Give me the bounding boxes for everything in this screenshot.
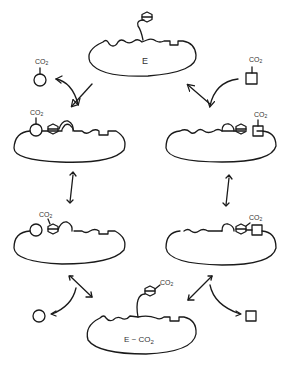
reversible-arrow-top-left bbox=[56, 76, 92, 106]
svg-text:CO2: CO2 bbox=[160, 279, 174, 287]
svg-text:CO2: CO2 bbox=[254, 111, 268, 119]
reversible-arrow-top-right bbox=[188, 79, 238, 106]
enzyme-square-transfer-complex: CO2 bbox=[166, 214, 276, 265]
svg-text:CO2: CO2 bbox=[249, 214, 263, 222]
enzyme-carboxylated: CO2 E ~ CO2 bbox=[87, 279, 196, 354]
reversible-arrow-left-vertical bbox=[67, 172, 76, 203]
circle-product bbox=[33, 310, 45, 322]
svg-text:CO2: CO2 bbox=[249, 56, 263, 64]
biotin-ring-icon bbox=[236, 124, 246, 134]
biotin-ring-icon bbox=[145, 286, 155, 296]
svg-text:CO2: CO2 bbox=[30, 109, 44, 117]
enzyme-free: E bbox=[89, 12, 196, 76]
enzyme-bottom-label: E ~ CO2 bbox=[124, 335, 154, 345]
carboxyltransferase-cycle-diagram: E CO2 CO2 CO2 bbox=[0, 0, 292, 368]
enzyme-top-label: E bbox=[142, 56, 148, 66]
enzyme-circle-substrate-complex: CO2 bbox=[14, 109, 125, 162]
biotin-ring-icon bbox=[48, 224, 58, 234]
biotin-ring-icon bbox=[142, 12, 152, 22]
enzyme-square-substrate-complex: CO2 bbox=[166, 111, 276, 162]
enzyme-circle-transfer-complex: CO2 bbox=[14, 211, 125, 264]
biotin-ring-icon bbox=[236, 224, 246, 234]
svg-text:CO2: CO2 bbox=[39, 211, 53, 219]
svg-text:CO2: CO2 bbox=[35, 58, 49, 66]
reversible-arrow-bottom-left bbox=[51, 276, 92, 316]
reversible-arrow-right-vertical bbox=[223, 175, 232, 206]
reversible-arrow-bottom-right bbox=[188, 276, 241, 316]
square-substrate-co2: CO2 bbox=[246, 56, 263, 84]
biotin-ring-icon bbox=[48, 124, 58, 134]
square-product bbox=[246, 311, 256, 321]
circle-substrate-co2: CO2 bbox=[34, 58, 49, 86]
